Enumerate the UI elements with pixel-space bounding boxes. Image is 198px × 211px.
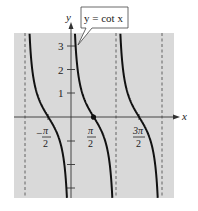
svg-text:2: 2 [136,138,141,149]
x-axis-arrow-icon [173,115,180,120]
y-tick-label-3: 3 [58,40,64,52]
x-axis-label: x [181,110,187,122]
svg-text:2: 2 [43,138,48,149]
y-axis-label: y [65,11,71,23]
cotangent-graph: 3 2 1 y x − π 2 π 2 3π 2 y = cot x [0,0,198,211]
y-tick-label-2: 2 [58,64,64,76]
y-axis-arrow-icon [69,22,74,29]
svg-text:−: − [36,127,42,139]
function-label: y = cot x [84,12,123,24]
svg-text:3π: 3π [132,125,144,136]
zero-point-marker [91,114,96,119]
svg-text:2: 2 [88,138,93,149]
y-tick-label-1: 1 [58,87,64,99]
